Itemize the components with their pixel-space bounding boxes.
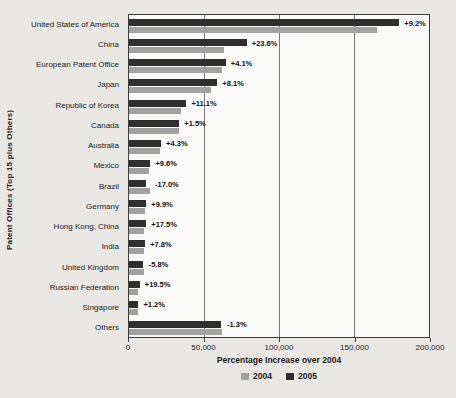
bar-row: +1.5% [129, 116, 429, 136]
legend-swatch [241, 373, 249, 380]
bar-row: -17.0% [129, 176, 429, 196]
bar-2005 [129, 39, 247, 46]
tick-mark [355, 338, 356, 342]
legend-label: 2005 [298, 371, 317, 381]
bar-2004 [129, 248, 144, 254]
patent-filings-bar-chart: Patent Offices (Top 15 plus Others) Unit… [0, 0, 456, 398]
bar-2004 [129, 168, 149, 174]
change-label: +9.9% [151, 199, 172, 208]
legend-item-2004: 2004 [241, 371, 272, 381]
x-tick: 100,000 [265, 343, 294, 352]
legend: 20042005 [128, 371, 430, 381]
category-label: Russian Federation [0, 277, 124, 297]
bar-row: +17.5% [129, 216, 429, 236]
bar-row: +1.2% [129, 297, 429, 317]
category-label: Germany [0, 196, 124, 216]
bar-row: +8.1% [129, 75, 429, 95]
x-tick: 150,000 [340, 343, 369, 352]
bar-2005 [129, 160, 150, 167]
change-label: +8.1% [222, 78, 243, 87]
bar-2004 [129, 208, 145, 214]
bar-2004 [129, 148, 160, 154]
bar-2004 [129, 269, 144, 275]
category-label: Canada [0, 115, 124, 135]
bar-2004 [129, 289, 138, 295]
category-label: Republic of Korea [0, 95, 124, 115]
bar-row: -5.8% [129, 257, 429, 277]
category-label: United Kingdom [0, 257, 124, 277]
bar-2004 [129, 309, 138, 315]
category-label: Brazil [0, 176, 124, 196]
category-label: China [0, 34, 124, 54]
tick-mark [204, 338, 205, 342]
change-label: -17.0% [155, 179, 179, 188]
change-label: +1.2% [143, 300, 164, 309]
bar-2005 [129, 301, 138, 308]
category-label: Others [0, 318, 124, 338]
category-label: European Patent Office [0, 55, 124, 75]
change-label: +11.1% [191, 99, 216, 108]
change-label: -1.3% [227, 320, 247, 329]
bar-2005 [129, 19, 399, 26]
bar-2005 [129, 59, 226, 66]
bar-2004 [129, 108, 181, 114]
bar-2005 [129, 200, 146, 207]
plot-rows: +9.2%+23.6%+4.1%+8.1%+11.1%+1.5%+4.3%+9.… [129, 15, 429, 337]
change-label: +7.8% [150, 239, 171, 248]
legend-label: 2004 [253, 371, 272, 381]
x-axis-ticks: 050,000100,000150,000200,000 [128, 340, 430, 350]
bar-2005 [129, 321, 221, 328]
bar-2004 [129, 228, 144, 234]
bar-2005 [129, 120, 179, 127]
bar-2005 [129, 100, 186, 107]
bar-2004 [129, 128, 179, 134]
tick-mark [128, 338, 129, 342]
bar-2005 [129, 180, 146, 187]
bar-row: +9.9% [129, 196, 429, 216]
bar-row: +4.1% [129, 55, 429, 75]
bar-2004 [129, 47, 224, 53]
change-label: +4.1% [231, 58, 252, 67]
bar-row: +7.8% [129, 236, 429, 256]
bar-2005 [129, 220, 146, 227]
x-tick: 0 [126, 343, 130, 352]
bar-row: +23.6% [129, 35, 429, 55]
bar-2005 [129, 281, 140, 288]
category-label: Japan [0, 75, 124, 95]
category-label: United States of America [0, 14, 124, 34]
bar-row: +11.1% [129, 96, 429, 116]
change-label: +23.6% [252, 38, 278, 47]
change-label: +1.5% [184, 119, 205, 128]
x-tick: 50,000 [191, 343, 215, 352]
change-label: +17.5% [151, 219, 177, 228]
category-label: Australia [0, 136, 124, 156]
bar-row: +4.3% [129, 136, 429, 156]
bar-2004 [129, 329, 222, 335]
category-labels: United States of AmericaChinaEuropean Pa… [0, 14, 124, 338]
plot-area: +9.2%+23.6%+4.1%+8.1%+11.1%+1.5%+4.3%+9.… [128, 14, 430, 338]
bar-row: +19.5% [129, 277, 429, 297]
bar-2005 [129, 79, 217, 86]
tick-mark [430, 338, 431, 342]
bar-2005 [129, 261, 143, 268]
change-label: +4.3% [166, 139, 187, 148]
category-label: Mexico [0, 156, 124, 176]
bar-row: +9.6% [129, 156, 429, 176]
bar-2004 [129, 27, 377, 33]
legend-swatch [286, 373, 294, 380]
category-label: Hong Kong, China [0, 217, 124, 237]
bar-2004 [129, 67, 222, 73]
tick-mark [279, 338, 280, 342]
bar-2004 [129, 87, 211, 93]
change-label: +9.6% [155, 159, 176, 168]
x-axis-title: Percentage Increase over 2004 [128, 355, 430, 365]
bar-2004 [129, 188, 150, 194]
legend-item-2005: 2005 [286, 371, 317, 381]
change-label: +9.2% [404, 18, 425, 27]
bar-row: +9.2% [129, 15, 429, 35]
bar-2005 [129, 140, 161, 147]
change-label: -5.8% [149, 260, 169, 269]
category-label: Singapore [0, 298, 124, 318]
change-label: +19.5% [145, 280, 171, 289]
category-label: India [0, 237, 124, 257]
